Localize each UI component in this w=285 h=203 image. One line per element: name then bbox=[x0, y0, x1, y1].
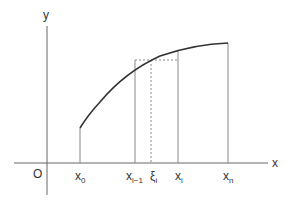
tick-xi-1: xi−1 bbox=[126, 169, 143, 185]
tick-x0: x0 bbox=[75, 169, 86, 185]
y-axis-label: y bbox=[43, 8, 49, 22]
tick-xi: ξi bbox=[150, 169, 157, 185]
origin-label: O bbox=[33, 167, 42, 181]
x-axis-label: x bbox=[272, 156, 278, 170]
function-curve bbox=[80, 43, 228, 128]
riemann-diagram: x y O x0 xi−1 ξi xi xn bbox=[0, 0, 285, 203]
tick-x-i: xi bbox=[175, 169, 183, 185]
tick-xn: xn bbox=[223, 169, 233, 185]
